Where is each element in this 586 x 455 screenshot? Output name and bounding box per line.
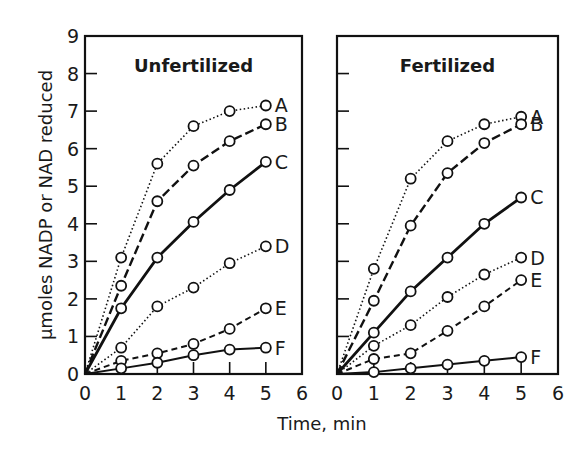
- data-point: [443, 326, 453, 336]
- data-point: [152, 301, 162, 311]
- panel-title: Unfertilized: [134, 55, 253, 76]
- data-point: [261, 241, 271, 251]
- data-point: [406, 320, 416, 330]
- y-tick-label: 8: [67, 63, 79, 85]
- data-point: [479, 301, 489, 311]
- data-point: [369, 341, 379, 351]
- series-line: [85, 124, 266, 374]
- data-point: [152, 253, 162, 263]
- series-line: [85, 162, 266, 374]
- data-point: [479, 219, 489, 229]
- data-point: [189, 339, 199, 349]
- series-line: [337, 197, 521, 374]
- data-point: [261, 100, 271, 110]
- series-f: F: [85, 337, 286, 374]
- x-tick-label: 2: [405, 382, 417, 404]
- data-point: [406, 348, 416, 358]
- data-point: [116, 343, 126, 353]
- series-label: B: [275, 113, 288, 135]
- x-tick-label: 6: [296, 382, 308, 404]
- data-point: [261, 303, 271, 313]
- y-tick-label: 0: [67, 363, 79, 385]
- data-point: [516, 192, 526, 202]
- data-point: [369, 354, 379, 364]
- y-axis-title: µmoles NADP or NAD reduced: [35, 70, 56, 340]
- data-point: [369, 367, 379, 377]
- data-point: [369, 296, 379, 306]
- series-line: [85, 308, 266, 374]
- y-tick-label: 4: [67, 213, 79, 235]
- x-tick-label: 0: [79, 382, 91, 404]
- data-point: [189, 161, 199, 171]
- data-point: [261, 343, 271, 353]
- x-tick-label: 1: [368, 382, 380, 404]
- data-point: [479, 269, 489, 279]
- series-line: [337, 124, 521, 374]
- x-tick-label: 5: [515, 382, 527, 404]
- data-point: [116, 281, 126, 291]
- y-tick-label: 7: [67, 100, 79, 122]
- data-point: [479, 138, 489, 148]
- y-tick-label: 6: [67, 138, 79, 160]
- data-point: [225, 258, 235, 268]
- data-point: [225, 185, 235, 195]
- y-tick-label: 5: [67, 175, 79, 197]
- x-tick-label: 3: [441, 382, 453, 404]
- chart-figure: µmoles NADP or NAD reduced Time, min Unf…: [0, 0, 586, 455]
- y-tick-label: 3: [67, 250, 79, 272]
- series-line: [337, 357, 521, 374]
- y-tick-label: 9: [67, 25, 79, 47]
- plot-frame: [85, 36, 302, 374]
- series-e: E: [85, 297, 287, 374]
- data-point: [443, 292, 453, 302]
- data-point: [189, 350, 199, 360]
- series-b: B: [85, 113, 288, 374]
- data-point: [443, 168, 453, 178]
- data-point: [116, 363, 126, 373]
- series-a: A: [337, 106, 543, 374]
- series-line: [85, 348, 266, 374]
- x-tick-label: 0: [331, 382, 343, 404]
- series-label: E: [530, 269, 542, 291]
- data-point: [189, 121, 199, 131]
- x-tick-label: 1: [115, 382, 127, 404]
- series-label: F: [530, 346, 541, 368]
- series-label: D: [275, 235, 290, 257]
- data-point: [369, 264, 379, 274]
- data-point: [516, 119, 526, 129]
- data-point: [261, 119, 271, 129]
- data-point: [406, 174, 416, 184]
- data-point: [225, 345, 235, 355]
- x-tick-label: 3: [187, 382, 199, 404]
- data-point: [516, 253, 526, 263]
- series-c: C: [85, 151, 288, 374]
- data-point: [406, 363, 416, 373]
- data-point: [152, 159, 162, 169]
- data-point: [152, 196, 162, 206]
- x-axis-title: Time, min: [276, 413, 366, 434]
- panel-title: Fertilized: [400, 55, 495, 76]
- x-tick-label: 5: [260, 382, 272, 404]
- data-point: [443, 253, 453, 263]
- x-tick-label: 6: [552, 382, 564, 404]
- y-tick-label: 1: [67, 325, 79, 347]
- data-point: [516, 352, 526, 362]
- series-label: C: [530, 186, 543, 208]
- data-point: [189, 283, 199, 293]
- panel-unfertilized: Unfertilized01234567890123456ABCDEF: [67, 25, 308, 404]
- data-point: [443, 360, 453, 370]
- x-tick-label: 4: [478, 382, 490, 404]
- data-point: [152, 358, 162, 368]
- series-line: [337, 117, 521, 374]
- data-point: [443, 136, 453, 146]
- data-point: [261, 157, 271, 167]
- series-label: C: [275, 151, 288, 173]
- x-tick-label: 2: [151, 382, 163, 404]
- series-label: D: [530, 247, 545, 269]
- data-point: [189, 217, 199, 227]
- data-point: [116, 253, 126, 263]
- data-point: [225, 324, 235, 334]
- panel-fertilized: Fertilized0123456ABCDEF: [331, 36, 564, 404]
- data-point: [225, 106, 235, 116]
- data-point: [406, 286, 416, 296]
